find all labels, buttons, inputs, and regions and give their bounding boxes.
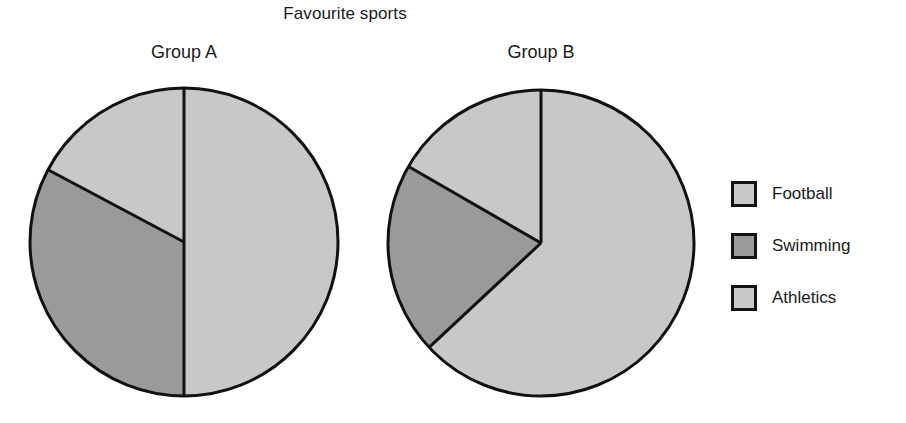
pie-group-a — [30, 88, 338, 396]
pie-group-b — [388, 90, 694, 396]
legend-label-athletics: Athletics — [772, 288, 836, 308]
legend-item-swimming: Swimming — [731, 220, 903, 272]
pie-chart-figure: Favourite sports Group A Group B Footbal… — [0, 0, 906, 423]
legend-item-football: Football — [731, 168, 903, 220]
chart-legend: Football Swimming Athletics — [731, 168, 903, 324]
legend-swatch-football — [731, 181, 757, 207]
legend-item-athletics: Athletics — [731, 272, 903, 324]
legend-label-swimming: Swimming — [772, 236, 850, 256]
legend-swatch-swimming — [731, 233, 757, 259]
legend-swatch-athletics — [731, 285, 757, 311]
pie-slice-football — [184, 88, 338, 396]
legend-label-football: Football — [772, 184, 832, 204]
